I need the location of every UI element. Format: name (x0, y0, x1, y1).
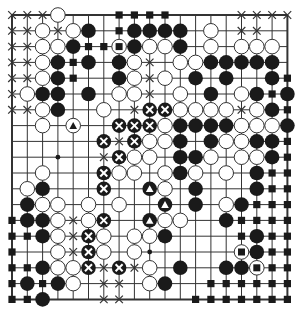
white-stone (35, 103, 50, 118)
white-stone (249, 150, 264, 165)
black-stone (173, 261, 188, 276)
black-stone (20, 213, 35, 228)
white-stone (188, 55, 203, 70)
black-stone (35, 292, 50, 307)
black-stone-x-marked (142, 118, 157, 133)
white-stone (188, 103, 203, 118)
black-stone-triangle-marked (142, 213, 157, 228)
white-stone-square-marked (234, 245, 249, 260)
black-stone (249, 55, 264, 70)
square-mark-icon (284, 169, 291, 176)
white-stone (142, 39, 157, 54)
black-stone (35, 87, 50, 102)
black-stone (158, 276, 173, 291)
square-mark-icon (253, 217, 260, 224)
square-mark-icon (116, 27, 123, 34)
black-stone (35, 261, 50, 276)
white-stone (158, 118, 173, 133)
white-stone (66, 24, 81, 39)
white-stone (51, 229, 66, 244)
square-mark-icon (284, 233, 291, 240)
white-stone (219, 103, 234, 118)
black-stone-x-marked (112, 150, 127, 165)
black-stone (142, 24, 157, 39)
black-stone-x-marked (142, 103, 157, 118)
square-mark-icon (8, 296, 15, 303)
square-mark-icon (100, 43, 107, 50)
square-mark-icon (8, 217, 15, 224)
black-stone (204, 55, 219, 70)
square-mark-icon (284, 280, 291, 287)
white-stone (204, 150, 219, 165)
square-mark-icon (238, 280, 245, 287)
black-stone (35, 229, 50, 244)
white-stone (204, 39, 219, 54)
white-stone (35, 39, 50, 54)
white-stone (127, 245, 142, 260)
white-stone-triangle-marked (66, 118, 81, 133)
square-mark-icon (284, 138, 291, 145)
white-stone (188, 166, 203, 181)
black-stone (188, 71, 203, 86)
square-mark-icon (161, 11, 168, 18)
white-stone (249, 103, 264, 118)
black-stone (112, 71, 127, 86)
square-mark-icon (39, 280, 46, 287)
white-stone (234, 134, 249, 149)
black-stone-x-marked (97, 134, 112, 149)
square-mark-icon (253, 201, 260, 208)
white-stone (35, 197, 50, 212)
white-stone (112, 166, 127, 181)
black-stone-x-marked (97, 182, 112, 197)
white-stone (158, 39, 173, 54)
black-stone-x-marked (97, 213, 112, 228)
black-stone (249, 87, 264, 102)
black-stone (249, 134, 264, 149)
black-stone (234, 261, 249, 276)
white-stone (127, 71, 142, 86)
black-stone (112, 55, 127, 70)
white-stone (127, 229, 142, 244)
square-mark-icon (284, 154, 291, 161)
black-stone (173, 166, 188, 181)
square-mark-icon (70, 59, 77, 66)
white-stone (142, 276, 157, 291)
black-stone-x-marked (158, 103, 173, 118)
square-mark-icon (253, 296, 260, 303)
black-stone (158, 24, 173, 39)
square-mark-icon (116, 11, 123, 18)
black-stone (158, 229, 173, 244)
white-stone (51, 39, 66, 54)
white-stone (127, 166, 142, 181)
white-stone-square-marked (249, 261, 264, 276)
white-stone (97, 229, 112, 244)
white-stone (97, 245, 112, 260)
square-mark-icon (192, 296, 199, 303)
square-mark-icon (284, 248, 291, 255)
white-stone (35, 55, 50, 70)
square-mark-icon (238, 296, 245, 303)
square-mark-icon (269, 248, 276, 255)
square-mark-icon (238, 217, 245, 224)
square-mark-icon (284, 296, 291, 303)
white-stone (249, 118, 264, 133)
white-stone (265, 39, 280, 54)
white-stone (142, 229, 157, 244)
square-mark-icon (70, 75, 77, 82)
white-stone (35, 24, 50, 39)
white-stone (234, 150, 249, 165)
star-point-icon (147, 250, 152, 255)
square-mark-icon (284, 106, 291, 113)
go-board-diagram (0, 0, 299, 310)
square-mark-icon (284, 75, 291, 82)
square-mark-icon (269, 280, 276, 287)
black-stone-x-marked (81, 229, 96, 244)
square-mark-icon (24, 264, 31, 271)
white-stone (219, 197, 234, 212)
black-stone (188, 150, 203, 165)
star-point-icon (56, 155, 61, 160)
square-mark-icon (284, 201, 291, 208)
white-stone (204, 103, 219, 118)
black-stone (127, 24, 142, 39)
black-stone (219, 71, 234, 86)
